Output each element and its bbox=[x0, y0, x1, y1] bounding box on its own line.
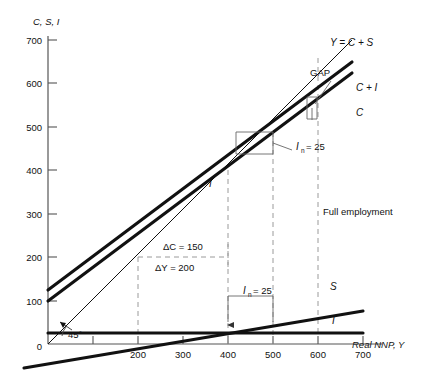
chart-background bbox=[0, 0, 426, 378]
delta-c-label: ΔC = 150 bbox=[163, 241, 203, 252]
gap-label: GAP bbox=[310, 67, 330, 78]
curve-label-s: S bbox=[330, 281, 337, 292]
y-tick-label-200: 200 bbox=[26, 252, 42, 263]
angle-label: 45° bbox=[68, 329, 83, 340]
investment-upper-subscript: n bbox=[301, 147, 305, 154]
investment-upper-letter: I bbox=[296, 141, 299, 152]
y-tick-label-500: 500 bbox=[26, 122, 42, 133]
x-tick-label-600: 600 bbox=[310, 349, 326, 360]
y-tick-label-300: 300 bbox=[26, 209, 42, 220]
aggregate-expenditure-chart: 700 600 500 400 300 200 100 0 200 300 40… bbox=[0, 0, 426, 378]
full-employment-label: Full employment bbox=[323, 206, 393, 217]
investment-lower-subscript: n bbox=[248, 291, 252, 298]
investment-lower-letter: I bbox=[243, 285, 246, 296]
y-tick-label-100: 100 bbox=[26, 296, 42, 307]
origin-label: 0 bbox=[37, 341, 42, 352]
investment-upper-value: = 25 bbox=[306, 141, 325, 152]
investment-lower-value: = 25 bbox=[253, 285, 272, 296]
x-tick-label-300: 300 bbox=[175, 349, 191, 360]
curve-label-y-equals-c-plus-s: Y = C + S bbox=[330, 37, 374, 48]
y-tick-label-600: 600 bbox=[26, 78, 42, 89]
x-axis-title: Real NNP, Y bbox=[352, 339, 405, 350]
x-tick-label-400: 400 bbox=[220, 349, 236, 360]
y-tick-label-400: 400 bbox=[26, 165, 42, 176]
equilibrium-label: I bbox=[209, 178, 212, 189]
curve-label-i: I bbox=[332, 315, 335, 326]
x-tick-label-700: 700 bbox=[355, 349, 371, 360]
chart-canvas: 700 600 500 400 300 200 100 0 200 300 40… bbox=[0, 0, 426, 378]
x-tick-label-500: 500 bbox=[265, 349, 281, 360]
delta-y-label: ΔY = 200 bbox=[155, 262, 194, 273]
curve-label-c: C bbox=[356, 107, 364, 118]
y-axis-title: C, S, I bbox=[33, 16, 60, 27]
curve-label-c-plus-i: C + I bbox=[356, 82, 378, 93]
y-tick-label-700: 700 bbox=[26, 35, 42, 46]
